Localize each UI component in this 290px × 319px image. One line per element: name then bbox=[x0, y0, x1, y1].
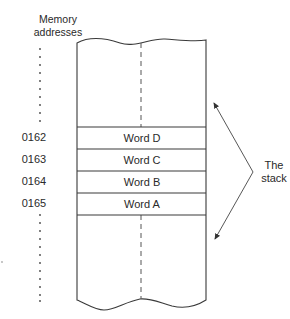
address-0164: 0164 bbox=[10, 175, 58, 187]
stack-label-line-2: stack bbox=[258, 172, 290, 185]
stack-label: The stack bbox=[258, 159, 290, 185]
dotted-address-line-top bbox=[39, 48, 41, 122]
word-c-cell: Word C bbox=[78, 154, 206, 166]
header-line-1: Memory bbox=[18, 13, 98, 26]
header-line-2: addresses bbox=[18, 26, 98, 39]
word-a-cell: Word A bbox=[78, 198, 206, 210]
address-0165: 0165 bbox=[10, 197, 58, 209]
stack-label-line-1: The bbox=[258, 159, 290, 172]
memory-addresses-header: Memory addresses bbox=[18, 13, 98, 39]
dotted-address-line-bottom bbox=[39, 214, 41, 302]
address-0163: 0163 bbox=[10, 153, 58, 165]
word-d-cell: Word D bbox=[78, 132, 206, 144]
word-b-cell: Word B bbox=[78, 176, 206, 188]
address-0162: 0162 bbox=[10, 131, 58, 143]
